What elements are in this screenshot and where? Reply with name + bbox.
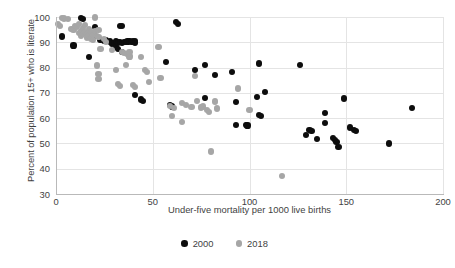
data-point-2000 xyxy=(202,62,208,68)
data-point-2000 xyxy=(86,54,92,60)
data-point-2018 xyxy=(214,105,220,111)
legend-item-2018[interactable]: 2018 xyxy=(236,238,268,249)
data-point-2000 xyxy=(192,67,198,73)
data-point-2000 xyxy=(233,99,239,105)
legend-label-2018: 2018 xyxy=(247,238,268,249)
data-point-2018 xyxy=(194,98,200,104)
data-point-2018 xyxy=(138,54,144,60)
data-point-2018 xyxy=(123,62,129,68)
data-point-2000 xyxy=(353,128,359,134)
data-point-2000 xyxy=(335,144,341,150)
data-point-2000 xyxy=(254,94,260,100)
data-point-2018 xyxy=(279,173,285,179)
data-point-2018 xyxy=(97,46,103,52)
data-point-2018 xyxy=(246,107,252,113)
y-axis-line xyxy=(56,17,57,195)
data-point-2018 xyxy=(117,83,123,89)
data-point-2018 xyxy=(144,69,150,75)
data-point-2000 xyxy=(175,21,181,27)
data-point-2018 xyxy=(188,104,194,110)
data-point-2000 xyxy=(132,40,138,46)
data-point-2000 xyxy=(233,122,239,128)
x-axis-title: Under-five mortality per 1000 live birth… xyxy=(56,204,443,215)
data-point-2000 xyxy=(409,105,415,111)
data-point-2000 xyxy=(244,122,250,128)
circle-marker-icon xyxy=(236,240,243,247)
data-point-2018 xyxy=(109,47,115,53)
data-point-2018 xyxy=(57,23,63,29)
data-point-2000 xyxy=(308,128,314,134)
data-point-2018 xyxy=(95,27,101,33)
data-point-2000 xyxy=(202,95,208,101)
data-point-2000 xyxy=(59,33,65,39)
data-point-2018 xyxy=(192,73,198,79)
data-point-2000 xyxy=(322,120,328,126)
data-point-2018 xyxy=(208,148,214,154)
legend-item-2000[interactable]: 2000 xyxy=(181,238,213,249)
data-point-2018 xyxy=(132,84,138,90)
data-point-2018 xyxy=(94,62,100,68)
data-point-2000 xyxy=(229,69,235,75)
data-point-2018 xyxy=(95,76,101,82)
data-point-2000 xyxy=(314,136,320,142)
data-point-2000 xyxy=(70,42,76,48)
data-point-2018 xyxy=(179,119,185,125)
data-point-2000 xyxy=(341,95,347,101)
gridline-vertical xyxy=(346,17,347,194)
y-axis-title: Percent of population 15+ who is literat… xyxy=(25,1,36,201)
gridline-vertical xyxy=(250,17,251,194)
data-point-2018 xyxy=(157,75,163,81)
data-point-2018 xyxy=(113,67,119,73)
data-point-2018 xyxy=(169,113,175,119)
gridline-vertical xyxy=(443,17,444,194)
data-point-2000 xyxy=(322,110,328,116)
data-point-2000 xyxy=(163,59,169,65)
plot-area xyxy=(56,17,443,194)
gridline-vertical xyxy=(153,17,154,194)
data-point-2000 xyxy=(386,140,392,146)
data-point-2000 xyxy=(262,89,268,95)
data-point-2018 xyxy=(65,16,71,22)
x-axis-line xyxy=(56,194,444,195)
chart-legend: 2000 2018 xyxy=(0,238,449,249)
data-point-2000 xyxy=(140,98,146,104)
data-point-2000 xyxy=(119,23,125,29)
legend-label-2000: 2000 xyxy=(193,238,214,249)
data-point-2018 xyxy=(155,44,161,50)
data-point-2018 xyxy=(235,85,241,91)
circle-marker-icon xyxy=(181,240,188,247)
data-point-2018 xyxy=(146,79,152,85)
data-point-2018 xyxy=(206,109,212,115)
data-point-2018 xyxy=(171,105,177,111)
data-point-2018 xyxy=(212,98,218,104)
data-point-2000 xyxy=(256,60,262,66)
data-point-2000 xyxy=(212,72,218,78)
data-point-2018 xyxy=(92,14,98,20)
